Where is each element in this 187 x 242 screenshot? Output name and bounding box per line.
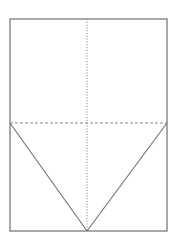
origami-diagram: [0, 0, 187, 242]
diagram-svg: [0, 0, 187, 242]
paper-outline: [10, 19, 167, 231]
